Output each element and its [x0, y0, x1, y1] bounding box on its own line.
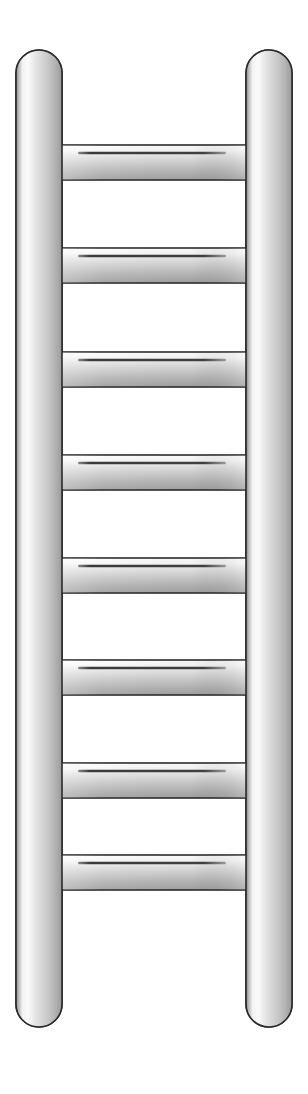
left-rail-overlay	[16, 50, 62, 1027]
rung-sheen	[60, 660, 248, 695]
rung-groove-line	[78, 862, 226, 864]
rung-4	[60, 455, 248, 490]
illustration-canvas: Ladder A vertical ladder drawn in graysc…	[0, 0, 308, 1094]
rung-groove-line	[78, 255, 226, 257]
rung-8	[60, 855, 248, 890]
rung-groove-line	[78, 359, 226, 361]
rung-1	[60, 145, 248, 180]
rung-groove-line	[78, 152, 226, 154]
rung-7	[60, 763, 248, 798]
rung-groove-line	[78, 667, 226, 669]
rung-sheen	[60, 248, 248, 283]
rung-groove-line	[78, 770, 226, 772]
rung-5	[60, 558, 248, 593]
rung-2	[60, 248, 248, 283]
rung-sheen	[60, 763, 248, 798]
rung-sheen	[60, 352, 248, 387]
rung-sheen	[60, 558, 248, 593]
right-rail-overlay	[246, 50, 292, 1027]
rung-sheen	[60, 455, 248, 490]
rung-groove-line	[78, 462, 226, 464]
ladder-illustration	[0, 0, 308, 1094]
rung-groove-line	[78, 565, 226, 567]
rung-3	[60, 352, 248, 387]
rung-sheen	[60, 855, 248, 890]
rung-6	[60, 660, 248, 695]
rung-sheen	[60, 145, 248, 180]
